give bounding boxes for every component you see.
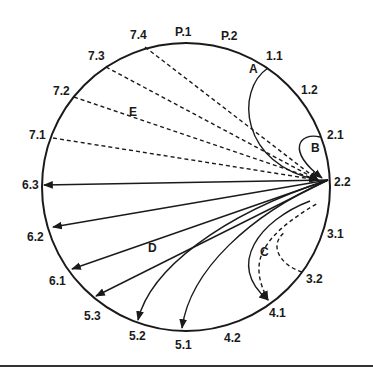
label-7-4: 7.4 bbox=[130, 28, 147, 42]
label-6-1: 6.1 bbox=[49, 274, 66, 288]
label-2-1: 2.1 bbox=[327, 128, 344, 142]
label-p2: P.2 bbox=[221, 29, 238, 43]
label-1-2: 1.2 bbox=[301, 83, 318, 97]
group-label-c: C bbox=[260, 245, 269, 259]
group-labels: A B C D E bbox=[129, 62, 320, 259]
group-label-d: D bbox=[148, 241, 157, 255]
label-5-3: 5.3 bbox=[84, 309, 101, 323]
bottom-divider bbox=[0, 365, 373, 367]
group-e-dashed-arrows bbox=[53, 47, 318, 180]
group-label-a: A bbox=[249, 62, 258, 76]
label-3-1: 3.1 bbox=[327, 227, 344, 241]
label-6-3: 6.3 bbox=[22, 178, 39, 192]
label-5-2: 5.2 bbox=[129, 329, 146, 343]
label-5-1: 5.1 bbox=[175, 338, 192, 352]
group-label-b: B bbox=[311, 141, 320, 155]
label-4-2: 4.2 bbox=[224, 331, 241, 345]
label-7-2: 7.2 bbox=[53, 84, 70, 98]
pathway-diagram: P.1 P.2 1.1 1.2 2.1 2.2 3.1 3.2 4.1 4.2 … bbox=[0, 0, 373, 369]
label-p1: P.1 bbox=[175, 25, 192, 39]
group-label-e: E bbox=[129, 105, 137, 119]
label-2-2: 2.2 bbox=[334, 175, 351, 189]
label-3-2: 3.2 bbox=[306, 272, 323, 286]
label-6-2: 6.2 bbox=[27, 230, 44, 244]
label-4-1: 4.1 bbox=[269, 306, 286, 320]
label-7-1: 7.1 bbox=[29, 128, 46, 142]
label-7-3: 7.3 bbox=[88, 49, 105, 63]
label-1-1: 1.1 bbox=[266, 49, 283, 63]
